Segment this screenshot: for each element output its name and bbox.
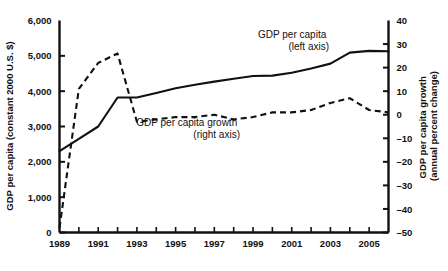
y-axis-left-tick-label: 2,000	[28, 156, 52, 167]
chart-container: 01,0002,0003,0004,0005,0006,000 –50–40–3…	[0, 0, 448, 271]
x-axis-tick-label: 1997	[204, 238, 225, 249]
y-axis-right-tick-label: –10	[397, 133, 413, 144]
y-axis-right-tick-label: –20	[397, 156, 413, 167]
x-axis-tick-label: 2001	[281, 238, 303, 249]
y-axis-left-tick-label: 4,000	[28, 86, 52, 97]
y-axis-left-tick-label: 3,000	[28, 121, 52, 132]
x-axis-tick-label: 2005	[359, 238, 381, 249]
y-axis-right-tick-labels: –50–40–30–20–10010203040	[397, 15, 413, 238]
y-axis-right-tick-label: 0	[397, 109, 402, 120]
y-axis-left-tick-label: 5,000	[28, 50, 52, 61]
y-axis-left-tick-label: 6,000	[28, 15, 52, 26]
x-axis-tick-label: 1995	[165, 238, 187, 249]
series-label-gdp-growth: GDP per capita growth (right axis)	[136, 117, 240, 140]
x-axis-tick-label: 1989	[49, 238, 70, 249]
y-axis-right-tick-label: –50	[397, 227, 413, 238]
y-axis-left-tick-label: 0	[46, 227, 51, 238]
x-axis-tick-labels: 198919911993199519971999200120032005	[49, 238, 380, 249]
y-axis-left-title: GDP per capita (constant 2000 U.S. $)	[4, 41, 15, 210]
series-label-gdp-per-capita: GDP per capita (left axis)	[258, 29, 329, 52]
y-axis-left-tick-label: 1,000	[28, 192, 52, 203]
x-axis-tick-label: 1993	[126, 238, 147, 249]
y-axis-right-tick-label: –40	[397, 204, 413, 215]
x-axis-tick-label: 2003	[320, 238, 341, 249]
y-axis-right-tick-label: 30	[397, 39, 408, 50]
y-axis-right-title: GDP per capita growth (annual percent ch…	[417, 71, 439, 181]
gdp-per-capita-line-chart: 01,0002,0003,0004,0005,0006,000 –50–40–3…	[0, 0, 448, 271]
x-axis-tick-label: 1991	[88, 238, 110, 249]
y-axis-right-tick-label: –30	[397, 180, 413, 191]
y-axis-right-tick-label: 20	[397, 62, 408, 73]
x-axis-tick-label: 1999	[242, 238, 263, 249]
y-axis-right-tick-label: 10	[397, 86, 408, 97]
y-axis-left-tick-labels: 01,0002,0003,0004,0005,0006,000	[28, 15, 52, 238]
y-axis-right-tick-label: 40	[397, 15, 408, 26]
